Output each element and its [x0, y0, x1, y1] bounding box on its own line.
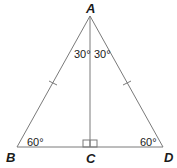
angle-label-cad: 30°	[94, 48, 111, 60]
vertex-label-a: A	[85, 1, 95, 16]
side-ab	[17, 16, 90, 147]
vertex-label-b: B	[6, 150, 15, 165]
vertex-label-d: D	[164, 150, 174, 165]
angle-label-bac: 30°	[74, 48, 91, 60]
side-ad	[90, 16, 163, 147]
triangle-diagram: A B C D 30° 30° 60° 60°	[0, 0, 177, 168]
angle-label-adc: 60°	[140, 136, 157, 148]
vertex-label-c: C	[86, 151, 96, 166]
angle-label-abc: 60°	[27, 136, 44, 148]
